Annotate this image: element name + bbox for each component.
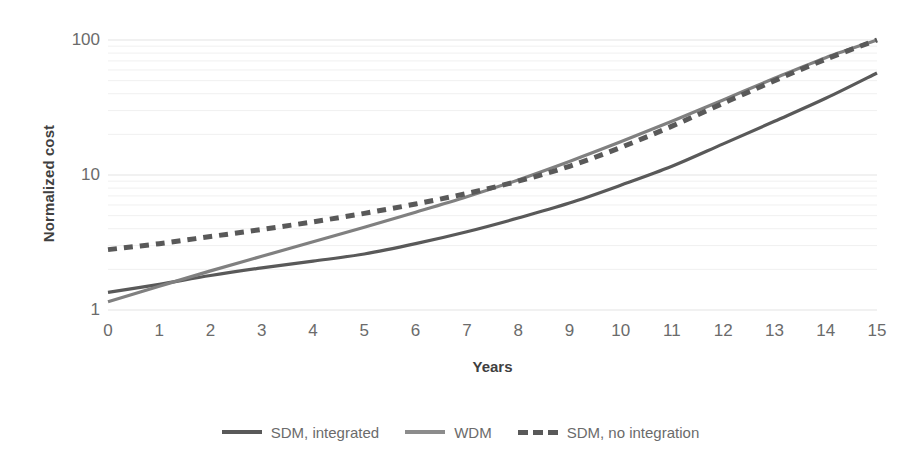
x-tick-label: 6 [396, 322, 436, 341]
gridlines [108, 40, 877, 310]
y-tick-label: 10 [42, 166, 100, 183]
legend-item[interactable]: WDM [405, 424, 492, 441]
x-tick-label: 9 [549, 322, 589, 341]
legend-label: WDM [454, 424, 492, 441]
x-tick-label: 13 [754, 322, 794, 341]
x-tick-label: 15 [857, 322, 897, 341]
legend-item[interactable]: SDM, no integration [518, 424, 700, 441]
plot-area [0, 0, 921, 473]
x-tick-label: 10 [601, 322, 641, 341]
x-axis-tick-labels: 0123456789101112131415 [108, 322, 877, 348]
data-series-group [108, 40, 877, 302]
x-tick-label: 0 [88, 322, 128, 341]
x-tick-label: 11 [652, 322, 692, 341]
legend-swatch-solid-line-icon [405, 430, 445, 434]
chart-legend: SDM, integratedWDMSDM, no integration [0, 412, 921, 452]
legend-label: SDM, integrated [271, 424, 379, 441]
series-line-sdm-no-integration [108, 40, 877, 250]
x-tick-label: 7 [447, 322, 487, 341]
x-tick-label: 12 [703, 322, 743, 341]
series-line-wdm [108, 40, 877, 302]
x-tick-label: 2 [191, 322, 231, 341]
y-tick-label: 1 [42, 301, 100, 318]
legend-label: SDM, no integration [567, 424, 700, 441]
x-tick-label: 1 [139, 322, 179, 341]
x-tick-label: 4 [293, 322, 333, 341]
series-line-sdm-integrated [108, 73, 877, 292]
legend-swatch-dashed-line-icon [518, 430, 558, 435]
y-axis-tick-labels: 110100 [40, 0, 100, 473]
legend-swatch-solid-line-icon [222, 430, 262, 434]
x-axis-title: Years [108, 358, 877, 375]
x-tick-label: 3 [242, 322, 282, 341]
x-tick-label: 5 [344, 322, 384, 341]
legend-item[interactable]: SDM, integrated [222, 424, 379, 441]
y-tick-label: 100 [42, 31, 100, 48]
chart-figure: Normalized cost 110100 01234567891011121… [0, 0, 921, 473]
x-tick-label: 8 [498, 322, 538, 341]
x-tick-label: 14 [806, 322, 846, 341]
